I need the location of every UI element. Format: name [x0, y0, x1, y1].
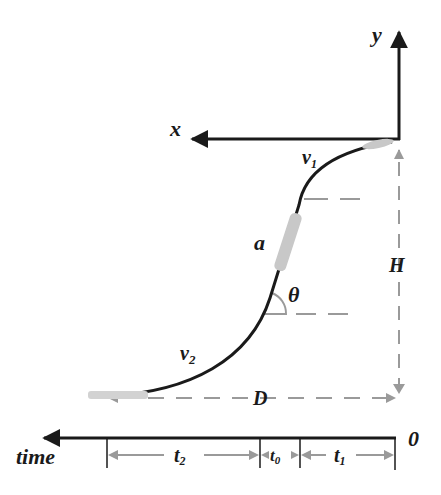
acceleration-label: a — [254, 230, 265, 255]
distance-label: D — [252, 387, 267, 409]
x-axis-label: x — [169, 116, 181, 141]
x-axis: x — [169, 116, 400, 141]
time-segment-t1: t1 — [301, 444, 394, 468]
trajectory-curve — [108, 142, 392, 396]
height-dimension: H — [388, 150, 406, 394]
y-axis-label: y — [369, 22, 382, 47]
velocity-end-label: v2 — [180, 342, 196, 367]
object-mid-icon — [273, 212, 303, 273]
height-label: H — [388, 254, 406, 276]
time-axis-label: time — [16, 444, 55, 469]
time-segment-t0: t0 — [261, 446, 299, 466]
svg-text:t2: t2 — [174, 444, 186, 468]
svg-text:t1: t1 — [334, 444, 346, 468]
svg-text:t0: t0 — [270, 446, 281, 466]
time-segment-t2: t2 — [108, 444, 259, 468]
angle-label: θ — [288, 282, 300, 307]
trajectory-diagram: y x H D θ v1 a v2 — [0, 0, 441, 495]
object-end-icon — [88, 391, 148, 399]
time-origin-label: 0 — [408, 426, 419, 451]
velocity-start-label: v1 — [302, 146, 317, 171]
y-axis: y — [369, 22, 399, 140]
time-axis: time 0 — [16, 426, 419, 470]
